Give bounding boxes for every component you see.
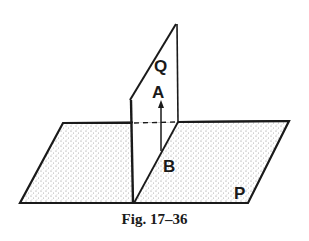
label-plane-p: P (234, 184, 245, 203)
label-plane-q: Q (154, 57, 167, 76)
perpendicular-planes-diagram: Q A B P (0, 0, 309, 241)
plane-q-right-edge (177, 24, 178, 122)
label-point-a: A (152, 83, 164, 102)
plane-p-back-edge-right (178, 121, 289, 122)
figure-caption: Fig. 17–36 (0, 211, 309, 228)
label-point-b: B (163, 157, 175, 176)
